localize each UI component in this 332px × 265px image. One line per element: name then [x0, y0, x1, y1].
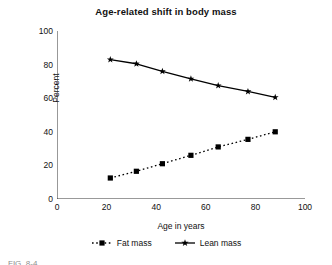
y-tick-label: 0 [48, 195, 53, 204]
series-group [107, 56, 279, 181]
x-tick-label: 80 [251, 203, 260, 212]
star-marker-icon [159, 68, 166, 75]
y-tick-label: 100 [39, 27, 53, 36]
x-tick-label: 40 [151, 203, 160, 212]
square-marker-icon [91, 238, 113, 248]
figure-caption-partial: FIG. 8-4 [8, 259, 324, 265]
figure-container: Age-related shift in body mass Percent A… [0, 0, 332, 265]
star-marker-icon [133, 60, 140, 67]
y-tick-label: 20 [44, 161, 53, 170]
axes-group [57, 31, 305, 199]
square-marker-icon [188, 153, 193, 158]
chart-legend: Fat massLean mass [0, 238, 332, 248]
plot-area: Percent Age in years 020406080100 020406… [57, 31, 305, 199]
x-tick-label: 20 [102, 203, 111, 212]
legend-label: Lean mass [200, 239, 242, 248]
legend-item-lean-mass[interactable]: Lean mass [174, 238, 242, 248]
x-axis-label: Age in years [57, 221, 305, 231]
star-marker-icon [107, 56, 114, 63]
star-marker-icon [215, 82, 222, 89]
y-tick-label: 80 [44, 60, 53, 69]
x-tick-label: 60 [201, 203, 210, 212]
star-marker-icon [272, 94, 279, 101]
y-tick-label: 40 [44, 128, 53, 137]
star-marker-icon [245, 88, 252, 95]
star-marker-icon [188, 75, 195, 82]
square-marker-icon [134, 169, 139, 174]
square-marker-icon [216, 144, 221, 149]
legend-label: Fat mass [117, 239, 152, 248]
square-marker-icon [245, 137, 250, 142]
x-tick-label: 100 [298, 203, 312, 212]
legend-item-fat-mass[interactable]: Fat mass [91, 238, 152, 248]
x-tick-label: 0 [55, 203, 60, 212]
square-marker-icon [160, 161, 165, 166]
square-marker-icon [273, 129, 278, 134]
star-marker-icon [174, 238, 196, 248]
plot-svg [57, 31, 305, 199]
chart-title: Age-related shift in body mass [0, 6, 332, 17]
square-marker-icon [108, 175, 113, 180]
y-tick-label: 60 [44, 94, 53, 103]
